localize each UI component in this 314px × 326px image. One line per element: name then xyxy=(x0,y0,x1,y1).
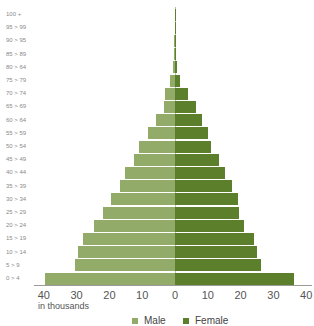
bar-female xyxy=(175,193,238,205)
bar-female xyxy=(175,273,294,285)
y-axis-label: 20 > 24 xyxy=(6,219,26,232)
x-axis-unit-label: in thousands xyxy=(38,301,89,311)
bar-female xyxy=(175,180,232,192)
legend-item-male: Male xyxy=(132,315,166,326)
y-axis-label: 70 > 74 xyxy=(6,87,26,100)
legend-label-female: Female xyxy=(195,315,228,326)
x-axis-tick-label: 20 xyxy=(229,289,253,301)
bar-female xyxy=(175,259,261,271)
population-pyramid-chart: 0 > 45 > 910 > 1415 > 1920 > 2425 > 2930… xyxy=(0,0,314,326)
bar-female xyxy=(175,48,176,60)
y-axis-label: 90 > 95 xyxy=(6,34,26,47)
bar-male xyxy=(165,88,175,100)
y-axis-label: 35 > 39 xyxy=(6,180,26,193)
male-swatch-icon xyxy=(132,318,138,324)
y-axis-label: 10 > 14 xyxy=(6,246,26,259)
y-axis-label: 60 > 64 xyxy=(6,114,26,127)
bar-male xyxy=(148,127,175,139)
x-axis-tick-label: 40 xyxy=(294,289,314,301)
bar-female xyxy=(175,101,196,113)
y-axis-label: 85 > 89 xyxy=(6,48,26,61)
x-axis-tick-label: 10 xyxy=(196,289,220,301)
y-axis-label: 0 > 4 xyxy=(6,272,20,285)
y-axis-label: 100 + xyxy=(6,8,21,21)
bar-female xyxy=(175,88,188,100)
x-axis-tick-label: 10 xyxy=(130,289,154,301)
bar-male xyxy=(75,259,175,271)
bar-female xyxy=(175,141,211,153)
y-axis-label: 5 > 9 xyxy=(6,259,20,272)
y-axis-label: 15 > 19 xyxy=(6,232,26,245)
y-axis-label: 75 > 79 xyxy=(6,74,26,87)
y-axis-label: 40 > 44 xyxy=(6,166,26,179)
y-axis-label: 25 > 29 xyxy=(6,206,26,219)
y-axis-label: 30 > 34 xyxy=(6,193,26,206)
x-axis-tick-label: 30 xyxy=(261,289,285,301)
bar-female xyxy=(175,167,225,179)
bar-female xyxy=(175,220,244,232)
bar-male xyxy=(120,180,175,192)
bar-female xyxy=(175,154,219,166)
x-axis-tick-label: 40 xyxy=(32,289,56,301)
x-axis-tick-label: 20 xyxy=(97,289,121,301)
bar-male xyxy=(103,207,175,219)
y-axis-label: 55 > 59 xyxy=(6,127,26,140)
female-swatch-icon xyxy=(183,318,189,324)
bar-male xyxy=(156,114,175,126)
y-axis-label: 80 > 64 xyxy=(6,61,26,74)
x-axis-tick-label: 30 xyxy=(65,289,89,301)
bar-male xyxy=(139,141,175,153)
bar-female xyxy=(175,75,180,87)
bar-female xyxy=(175,114,202,126)
bar-male xyxy=(45,273,175,285)
y-axis-label: 95 > 99 xyxy=(6,21,26,34)
x-axis-line xyxy=(34,285,312,286)
bar-female xyxy=(175,61,177,73)
y-axis-label: 65 > 69 xyxy=(6,100,26,113)
legend-item-female: Female xyxy=(183,315,228,326)
bar-male xyxy=(125,167,175,179)
bar-male xyxy=(83,233,175,245)
bar-female xyxy=(175,127,208,139)
legend-label-male: Male xyxy=(144,315,166,326)
y-axis-label: 45 > 49 xyxy=(6,153,26,166)
y-axis-label: 50 > 54 xyxy=(6,140,26,153)
bar-male xyxy=(111,193,175,205)
bar-female xyxy=(175,22,176,34)
bar-female xyxy=(175,246,257,258)
bar-male xyxy=(94,220,175,232)
bar-female xyxy=(175,207,239,219)
bar-male xyxy=(78,246,175,258)
legend: Male Female xyxy=(0,315,314,326)
x-axis-tick-label: 0 xyxy=(163,289,187,301)
bar-male xyxy=(134,154,175,166)
bar-female xyxy=(175,9,176,21)
bar-female xyxy=(175,233,254,245)
bar-male xyxy=(164,101,175,113)
bar-female xyxy=(175,35,176,47)
